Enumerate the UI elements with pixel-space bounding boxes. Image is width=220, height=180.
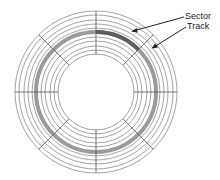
sector-arrow xyxy=(131,17,184,33)
sector-label: Sector xyxy=(185,11,211,21)
track-ring xyxy=(58,54,134,130)
sector-boundaries xyxy=(15,11,177,173)
track-label: Track xyxy=(187,21,209,31)
